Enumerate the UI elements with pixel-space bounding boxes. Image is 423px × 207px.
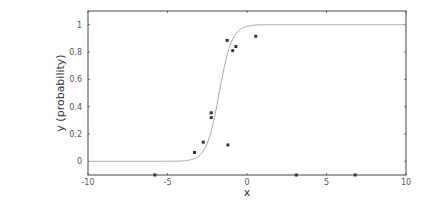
logistic-regression-chart: -10-5051000.20.40.60.81 x y (probability… [0,0,423,207]
y-tick-label: 0.4 [69,103,82,112]
data-points [153,35,356,177]
data-point [231,49,234,52]
y-tick-label: 1 [77,21,82,30]
data-point [210,116,213,119]
y-tick-label: 0 [77,157,82,166]
data-point [193,151,196,154]
plot-frame [88,11,406,175]
y-axis-label: y (probability) [54,54,67,131]
x-tick-label: -10 [81,178,94,187]
x-tick-label: 5 [324,178,329,187]
data-point [210,111,213,114]
logistic-curve [88,25,406,162]
axis-ticks [88,11,406,175]
data-point [202,141,205,144]
data-point [153,174,156,177]
x-tick-label: 10 [401,178,411,187]
data-point [226,39,229,42]
plot-area: -10-5051000.20.40.60.81 [69,11,411,187]
data-point [234,45,237,48]
x-tick-label: -5 [164,178,172,187]
data-point [226,143,229,146]
tick-labels: -10-5051000.20.40.60.81 [69,21,411,187]
x-axis-label: x [244,186,251,199]
data-point [295,174,298,177]
data-point [354,174,357,177]
y-tick-label: 0.6 [69,75,82,84]
data-point [254,35,257,38]
y-tick-label: 0.8 [69,48,82,57]
y-tick-label: 0.2 [69,130,82,139]
